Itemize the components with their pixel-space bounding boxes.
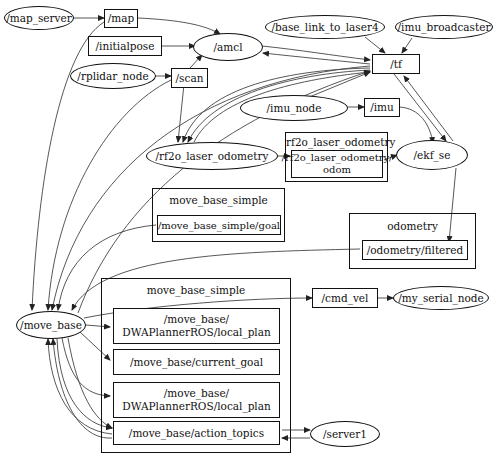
topic-action-topics[interactable]: /move_base/action_topics [113, 421, 280, 445]
edge-baselink-tf [365, 37, 385, 53]
node-my-serial-node[interactable]: /my_serial_node [393, 286, 489, 310]
cluster-label: rf2o_laser_odometry [286, 136, 387, 148]
node-map-server[interactable]: /map_server [4, 6, 74, 30]
edge-map-amcl [138, 18, 220, 34]
topic-dwa-local-plan-1[interactable]: /move_base/ DWAPlannerROS/local_plan [113, 308, 280, 344]
edge-scan-rf2o [178, 84, 184, 142]
node-ekf-se[interactable]: /ekf_se [396, 140, 468, 170]
node-amcl[interactable]: /amcl [193, 33, 263, 61]
topic-map[interactable]: /map [104, 9, 138, 28]
topic-scan[interactable]: /scan [171, 68, 208, 88]
topic-odometry-filtered[interactable]: /odometry/filtered [362, 240, 468, 260]
topic-current-goal[interactable]: /move_base/current_goal [113, 349, 280, 375]
topic-rf2o-odom[interactable]: /rf2o_laser_odometry/ odom [291, 150, 383, 178]
edge-imu-ekf [399, 107, 433, 143]
edge-ekf-tf [404, 76, 453, 141]
topic-move-base-simple-goal[interactable]: /move_base_simple/goal [157, 215, 281, 235]
edge-imubroad-tf [402, 38, 412, 53]
node-imu-node[interactable]: /imu_node [240, 95, 348, 121]
node-base-link-to-laser4[interactable]: /base_link_to_laser4 [265, 15, 385, 39]
topic-tf[interactable]: /tf [372, 54, 420, 74]
edge-amcl-tf [262, 46, 370, 60]
node-rplidar-node[interactable]: /rplidar_node [70, 63, 156, 89]
topic-initialpose[interactable]: /initialpose [88, 36, 162, 56]
edge-tf-amcl [263, 53, 370, 64]
cluster-label: move_base_simple [102, 284, 290, 296]
node-rf2o-laser-odometry[interactable]: /rf2o_laser_odometry [146, 142, 278, 170]
cluster-label: move_base_simple [153, 194, 284, 206]
cluster-label: odometry [350, 220, 475, 232]
topic-imu[interactable]: /imu [364, 98, 400, 117]
node-imu-broadcaster[interactable]: /imu_broadcaster [395, 15, 493, 39]
node-server1[interactable]: /server1 [310, 421, 380, 447]
topic-cmd-vel[interactable]: /cmd_vel [312, 288, 378, 308]
edge-scan-amcl [190, 55, 202, 68]
node-move-base[interactable]: /move_base [16, 311, 86, 339]
topic-dwa-local-plan-2[interactable]: /move_base/ DWAPlannerROS/local_plan [113, 382, 280, 418]
